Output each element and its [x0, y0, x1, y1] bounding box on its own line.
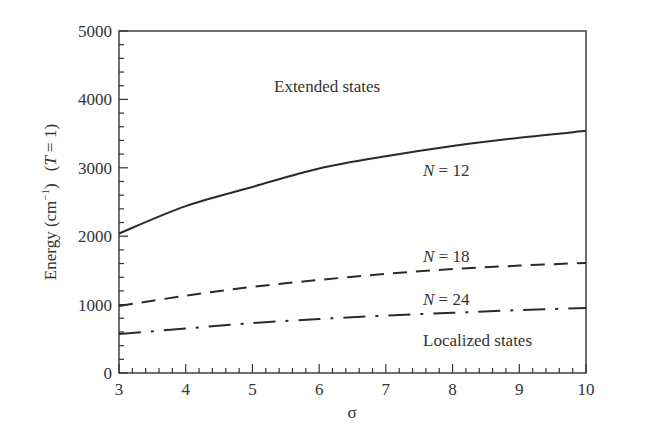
n24-label: N = 24	[422, 290, 470, 309]
n18-label: N = 18	[422, 247, 469, 266]
y-axis-title: Energy (cm−1)(T = 1)	[39, 124, 60, 280]
n18-value: = 18	[434, 247, 469, 266]
x-tick-label: 5	[248, 380, 257, 399]
y-tick-label: 2000	[78, 227, 112, 246]
y-axis-title-close: )	[41, 183, 60, 189]
localized-states-label: Localized states	[423, 331, 532, 350]
x-axis-title: σ	[347, 403, 356, 422]
x-tick-label: 3	[115, 380, 124, 399]
y-axis-title-sup: −1	[39, 189, 51, 201]
y-tick-label: 1000	[78, 296, 112, 315]
x-axis-ticks: 345678910	[115, 364, 595, 399]
x-tick-label: 10	[578, 380, 595, 399]
y-tick-label: 4000	[78, 90, 112, 109]
x-tick-label: 6	[315, 380, 324, 399]
x-tick-label: 7	[382, 380, 391, 399]
y-tick-label: 3000	[78, 159, 112, 178]
x-tick-label: 4	[181, 380, 190, 399]
data-series	[119, 131, 586, 334]
y-axis-ticks: 010002000300040005000	[78, 22, 128, 383]
series-line-12	[119, 131, 586, 234]
y-axis-title-main: Energy (cm	[41, 201, 60, 280]
y-axis-condition-rest: = 1)	[41, 124, 60, 156]
series-line-18	[119, 263, 586, 306]
y-tick-label: 0	[104, 364, 113, 383]
x-tick-label: 9	[515, 380, 524, 399]
x-tick-label: 8	[448, 380, 457, 399]
y-tick-label: 5000	[78, 22, 112, 41]
n12-label: N = 12	[422, 161, 469, 180]
n12-value: = 12	[434, 161, 469, 180]
energy-vs-sigma-chart: 010002000300040005000 345678910 σ Energy…	[0, 0, 667, 442]
n24-value: = 24	[434, 290, 470, 309]
extended-states-label: Extended states	[274, 77, 380, 96]
